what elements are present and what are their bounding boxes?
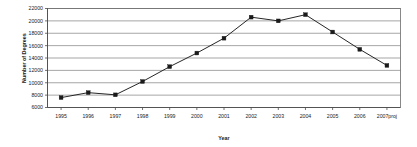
chart-background	[0, 0, 417, 147]
data-point-marker	[304, 13, 308, 17]
y-tick-label: 8000	[31, 92, 43, 98]
x-tick-label: 2004	[300, 113, 312, 119]
data-point-marker	[59, 96, 63, 100]
x-tick-label: 1999	[164, 113, 176, 119]
data-point-marker	[195, 51, 199, 55]
x-tick-label: 2007proj	[377, 113, 397, 119]
data-point-marker	[86, 91, 90, 95]
data-point-marker	[113, 93, 117, 97]
data-point-marker	[331, 30, 335, 34]
data-point-marker	[249, 15, 253, 19]
x-tick-label: 1995	[55, 113, 67, 119]
y-axis-tick-labels: 6000800010000120001400016000180002000022…	[29, 5, 44, 110]
line-chart: 6000800010000120001400016000180002000022…	[0, 0, 417, 147]
y-tick-label: 10000	[29, 80, 44, 86]
x-tick-label: 2003	[273, 113, 285, 119]
x-tick-label: 2001	[218, 113, 230, 119]
x-axis-title: Year	[218, 135, 230, 141]
data-point-marker	[222, 36, 226, 40]
x-tick-label: 2000	[191, 113, 203, 119]
y-tick-label: 14000	[29, 55, 44, 61]
data-point-marker	[358, 47, 362, 51]
data-point-marker	[141, 80, 145, 84]
y-tick-label: 18000	[29, 30, 44, 36]
y-tick-label: 20000	[29, 18, 44, 24]
x-tick-label: 2005	[327, 113, 339, 119]
y-axis-title: Number of Degrees	[21, 33, 27, 83]
x-tick-label: 2006	[354, 113, 366, 119]
chart-container: 6000800010000120001400016000180002000022…	[0, 0, 417, 147]
y-tick-label: 6000	[31, 104, 43, 110]
data-point-marker	[385, 64, 389, 68]
x-tick-label: 1998	[137, 113, 149, 119]
data-point-marker	[168, 65, 172, 69]
y-tick-label: 16000	[29, 43, 44, 49]
x-tick-label: 1996	[82, 113, 94, 119]
y-tick-label: 22000	[29, 5, 44, 11]
y-tick-label: 12000	[29, 67, 44, 73]
x-tick-label: 2002	[245, 113, 257, 119]
data-point-marker	[276, 19, 280, 23]
x-tick-label: 1997	[110, 113, 122, 119]
